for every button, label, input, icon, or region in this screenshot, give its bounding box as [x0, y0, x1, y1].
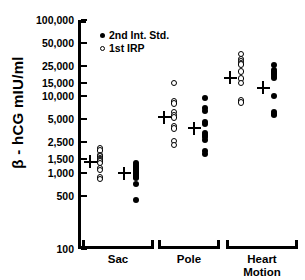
- data-point: [238, 68, 245, 75]
- y-tick-label: 100: [56, 244, 74, 254]
- legend-item-irp: 1st IRP: [96, 42, 169, 54]
- y-tick-label: 15,000: [42, 78, 74, 88]
- data-point: [97, 176, 104, 183]
- y-tick-label: 25,000: [42, 61, 74, 71]
- data-point: [97, 167, 104, 174]
- y-tick: [81, 118, 87, 120]
- mean-marker: [118, 167, 131, 180]
- mean-marker: [84, 155, 97, 168]
- mean-marker: [224, 71, 237, 84]
- chart-legend: 2nd Int. Std. 1st IRP: [96, 29, 169, 55]
- group-bracket-heart-motion: [226, 240, 298, 249]
- group-label-heart-line1: Heart: [226, 253, 298, 266]
- data-point: [171, 114, 178, 121]
- data-point: [202, 151, 208, 157]
- mean-marker: [257, 81, 270, 94]
- data-point: [171, 142, 178, 149]
- group-bracket-sac: [82, 240, 154, 249]
- group-label-heart-motion: Heart Motion: [226, 253, 298, 279]
- filled-circle-icon: [96, 33, 109, 38]
- y-tick: [81, 172, 87, 174]
- data-point: [171, 80, 178, 87]
- y-axis-title: β - hCG mIU/ml: [9, 28, 26, 198]
- data-point: [271, 112, 277, 118]
- y-axis-line: [78, 20, 81, 249]
- data-point: [171, 125, 178, 132]
- data-point: [202, 108, 208, 114]
- data-point: [171, 100, 178, 107]
- data-point: [133, 197, 139, 203]
- data-point: [238, 99, 245, 106]
- data-point: [271, 75, 277, 81]
- y-tick-label: 1,000: [48, 168, 74, 178]
- y-tick-label: 10,000: [42, 91, 74, 101]
- legend-item-int-std: 2nd Int. Std.: [96, 29, 169, 41]
- y-tick-label: 5,000: [48, 114, 74, 124]
- group-label-pole: Pole: [158, 253, 220, 266]
- y-tick-label: 1,500: [48, 154, 74, 164]
- data-point: [271, 93, 277, 99]
- beta-hcg-scatter-chart: β - hCG mIU/ml 100,00050,00025,00015,000…: [0, 0, 305, 280]
- group-label-heart-line2: Motion: [226, 266, 298, 279]
- group-bracket-pole: [158, 240, 220, 249]
- y-tick: [81, 141, 87, 143]
- data-point: [133, 181, 139, 187]
- data-point: [202, 137, 208, 143]
- y-tick-label: 2,500: [48, 137, 74, 147]
- data-point: [202, 121, 208, 127]
- y-tick: [81, 42, 87, 44]
- legend-label-int-std: 2nd Int. Std.: [109, 29, 169, 41]
- y-tick: [81, 82, 87, 84]
- data-point: [202, 95, 208, 101]
- data-point: [238, 80, 245, 87]
- data-point: [238, 61, 245, 68]
- legend-label-irp: 1st IRP: [109, 42, 145, 54]
- y-tick: [81, 65, 87, 67]
- y-tick: [81, 19, 87, 21]
- y-tick-label: 100,000: [36, 15, 74, 25]
- y-tick-label: 500: [56, 191, 74, 201]
- y-tick-label: 50,000: [42, 38, 74, 48]
- mean-marker: [188, 122, 201, 135]
- open-circle-icon: [96, 46, 109, 51]
- group-label-sac: Sac: [82, 253, 154, 266]
- y-tick: [81, 195, 87, 197]
- y-tick: [81, 95, 87, 97]
- mean-marker: [158, 111, 171, 124]
